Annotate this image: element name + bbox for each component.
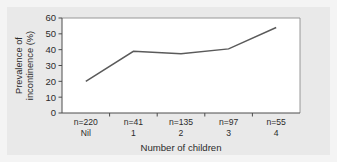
figure-container: 0 10 20 30 40 50 60 n=220 n=41 n=135 n=9… (0, 0, 337, 162)
y-tick-label-10: 10 (45, 92, 56, 103)
y-tick-label-40: 40 (45, 44, 56, 55)
y-tick-group (59, 18, 63, 113)
y-axis-title-line1: Prevalence of (14, 37, 24, 94)
x-tick-label-4: 4 (274, 128, 279, 138)
x-tick-count-nil: n=220 (74, 117, 98, 127)
y-tick-label-50: 50 (45, 28, 56, 39)
x-tick-count-1: n=41 (124, 117, 144, 127)
x-tick-count-3: n=97 (219, 117, 239, 127)
x-tick-group (110, 113, 253, 117)
y-tick-label-30: 30 (45, 60, 56, 71)
x-tick-label-1: 1 (131, 128, 136, 138)
x-tick-label-2: 2 (179, 128, 184, 138)
y-tick-label-20: 20 (45, 76, 56, 87)
line-chart: 0 10 20 30 40 50 60 n=220 n=41 n=135 n=9… (0, 0, 337, 162)
x-tick-label-3: 3 (226, 128, 231, 138)
x-axis-title: Number of children (140, 142, 221, 153)
y-tick-label-60: 60 (45, 12, 56, 23)
y-axis-title-line2: incontinence (%) (25, 31, 35, 100)
x-tick-count-2: n=135 (169, 117, 193, 127)
y-tick-label-0: 0 (51, 107, 56, 118)
x-tick-count-4: n=55 (267, 117, 287, 127)
x-tick-label-nil: Nil (81, 128, 91, 138)
